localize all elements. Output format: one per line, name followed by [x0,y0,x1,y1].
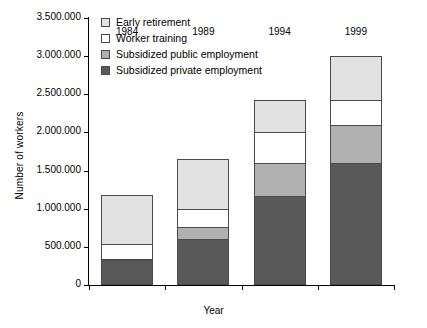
y-tick-label: 1.000.000 [37,202,82,213]
y-tick-mark [84,171,89,172]
bar-1984[interactable] [101,195,153,285]
bar-1999[interactable] [330,56,382,285]
bar-segment [330,125,382,163]
legend-swatch-icon [101,50,110,59]
legend-label: Subsidized public employment [116,48,258,60]
y-tick-label: 2.500.000 [37,87,82,98]
x-tick-mark [89,285,90,290]
x-tick-mark [318,285,319,290]
legend-item[interactable]: Worker training [101,30,262,46]
y-tick-mark [84,247,89,248]
legend-swatch-icon [101,18,110,27]
bar-segment [254,132,306,163]
legend-label: Early retirement [116,16,190,28]
legend-item[interactable]: Subsidized private employment [101,62,262,78]
bar-segment [177,227,229,239]
bar-1994[interactable] [254,100,306,285]
bar-segment [177,159,229,209]
y-tick-label: 3.000.000 [37,49,82,60]
y-axis-title: Number of workers [14,96,25,216]
x-tick-label: 1994 [269,26,291,37]
x-tick-mark [165,285,166,290]
legend-swatch-icon [101,34,110,43]
bar-segment [101,260,153,285]
chart-legend: Early retirementWorker trainingSubsidize… [101,14,262,78]
y-tick-label: 2.000.000 [37,125,82,136]
stacked-bar-chart: Number of workers Year 0500.0001.000.000… [0,0,427,328]
x-tick-mark [394,285,395,290]
legend-label: Worker training [116,32,187,44]
legend-label: Subsidized private employment [116,64,262,76]
bar-segment [330,163,382,285]
legend-item[interactable]: Early retirement [101,14,262,30]
y-tick-mark [84,209,89,210]
bar-segment [177,209,229,227]
x-tick-mark [242,285,243,290]
bar-1989[interactable] [177,159,229,285]
y-tick-label: 1.500.000 [37,164,82,175]
y-tick-label: 500.000 [45,240,81,251]
bar-segment [254,163,306,196]
legend-item[interactable]: Subsidized public employment [101,46,262,62]
bar-segment [101,244,153,258]
bar-segment [177,239,229,285]
y-tick-mark [84,56,89,57]
y-tick-label: 3.500.000 [37,11,82,22]
legend-swatch-icon [101,66,110,75]
y-tick-mark [84,18,89,19]
x-tick-label: 1999 [345,26,367,37]
bar-segment [254,100,306,132]
bar-segment [330,56,382,99]
y-tick-mark [84,132,89,133]
y-tick-label: 0 [75,278,81,289]
bar-segment [101,195,153,245]
y-tick-mark [84,94,89,95]
x-axis-title: Year [0,305,427,316]
bar-segment [254,196,306,285]
bar-segment [330,100,382,125]
